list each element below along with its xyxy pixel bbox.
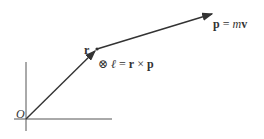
p-symbol: p (213, 17, 220, 31)
origin-label: O (16, 108, 25, 120)
position-vector-r (26, 51, 95, 119)
equals-sign: = (116, 57, 129, 71)
velocity-symbol: v (241, 17, 247, 31)
momentum-label: p = mv (213, 18, 247, 30)
p-symbol: p (147, 57, 154, 71)
angular-momentum-label: ⊗ ℓ = r × p (98, 58, 154, 70)
momentum-vector-p (97, 14, 212, 49)
out-of-page-icon: ⊗ (98, 57, 108, 71)
r-vector-label: r (84, 44, 89, 56)
mass-symbol: m (232, 17, 241, 31)
equals-sign: = (220, 17, 233, 31)
cross-sign: × (134, 57, 147, 71)
